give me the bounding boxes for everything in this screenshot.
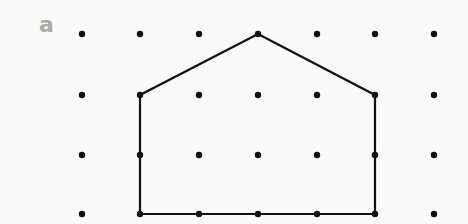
grid-dot [314,92,320,98]
grid-dot [196,31,202,37]
grid-dot [431,152,437,158]
grid-dot [79,92,85,98]
grid-dot [372,152,378,158]
grid-dot [255,211,261,217]
grid-dot [196,92,202,98]
grid-dot [314,152,320,158]
grid-dots [79,31,437,217]
grid-dot [79,211,85,217]
grid-dot [372,31,378,37]
grid-dot [255,152,261,158]
grid-dot [255,92,261,98]
grid-dot [137,31,143,37]
grid-dot [137,152,143,158]
grid-dot [431,92,437,98]
grid-dot [79,31,85,37]
pentagon-shape [140,34,375,214]
grid-dot [314,31,320,37]
grid-dot [196,152,202,158]
grid-dot [79,152,85,158]
grid-dot [137,211,143,217]
grid-dot [255,31,261,37]
dot-grid-diagram [0,0,468,224]
grid-dot [314,211,320,217]
grid-dot [137,92,143,98]
grid-dot [372,92,378,98]
grid-dot [431,211,437,217]
grid-dot [196,211,202,217]
grid-dot [372,211,378,217]
grid-dot [431,31,437,37]
